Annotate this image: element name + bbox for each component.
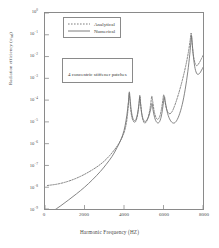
annotation-box: 4 concentric stiffener patches [62, 58, 133, 83]
y-axis-tick-labels: 10010−110−210−310−410−510−610−710−810−9 [0, 12, 42, 210]
legend-label-analytical: Analytical [94, 22, 115, 27]
y-tick-label-2: 10−2 [30, 53, 38, 59]
annotation-text: 4 concentric stiffener patches [68, 72, 127, 77]
figure-container: Radiation efficiency (σrad) 10010−110−21… [0, 0, 219, 248]
x-tick-label-4: 8000 [199, 212, 209, 217]
legend-label-numerical: Numerical [94, 29, 115, 34]
legend-swatch-solid-icon [68, 28, 90, 34]
y-tick-label-4: 10−4 [30, 97, 38, 103]
legend-item-numerical: Numerical [68, 28, 115, 35]
series-line-analytical [47, 33, 203, 185]
y-tick-label-7: 10−7 [30, 163, 38, 169]
y-tick-label-9: 10−9 [30, 207, 38, 213]
y-tick-label-5: 10−5 [30, 119, 38, 125]
plot-area [44, 12, 204, 210]
x-tick-label-0: 0 [43, 212, 46, 217]
y-tick-label-1: 10−1 [30, 31, 38, 37]
y-tick-label-3: 10−3 [30, 75, 38, 81]
x-axis-title: Harmonic Frequency (HZ) [0, 229, 219, 235]
y-tick-label-6: 10−6 [30, 141, 38, 147]
legend-swatch-dotted-icon [68, 21, 90, 27]
plot-svg [45, 13, 203, 209]
x-axis-tick-labels: 02000400060008000 [44, 212, 204, 224]
x-tick-label-1: 2000 [79, 212, 89, 217]
x-tick-label-3: 6000 [159, 212, 169, 217]
legend-item-analytical: Analytical [68, 21, 115, 28]
x-tick-label-2: 4000 [119, 212, 129, 217]
legend: Analytical Numerical [63, 17, 121, 38]
y-tick-label-0: 100 [32, 9, 38, 15]
y-tick-label-8: 10−8 [30, 185, 38, 191]
